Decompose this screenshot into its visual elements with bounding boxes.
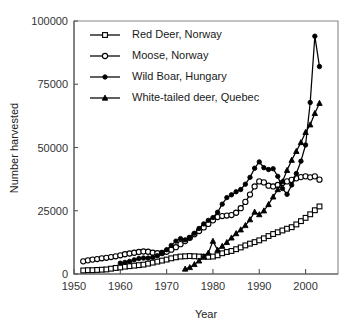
data-point	[155, 254, 159, 258]
data-point	[257, 238, 262, 243]
data-point	[201, 222, 205, 226]
data-point	[276, 174, 280, 178]
data-point	[229, 249, 234, 254]
data-point	[257, 160, 261, 164]
data-point	[95, 268, 100, 273]
data-point	[243, 182, 247, 186]
data-point	[280, 186, 284, 190]
data-point	[127, 264, 132, 269]
y-tick-label-0: 0	[62, 268, 68, 280]
data-point	[234, 190, 238, 194]
data-point	[317, 177, 322, 182]
x-tick-label-1980: 1980	[201, 280, 225, 292]
data-point	[229, 193, 233, 197]
data-point	[104, 267, 109, 272]
data-point	[261, 180, 266, 185]
data-point	[271, 167, 275, 171]
data-point	[187, 254, 192, 259]
data-point	[308, 100, 312, 104]
data-point	[178, 236, 182, 240]
data-point	[289, 183, 293, 187]
data-point	[313, 34, 317, 38]
data-point	[289, 225, 294, 230]
data-point	[248, 175, 252, 179]
data-point	[262, 166, 266, 170]
data-point	[266, 167, 270, 171]
data-point	[178, 254, 183, 259]
data-point	[197, 226, 201, 230]
data-point	[132, 258, 136, 262]
data-point	[266, 234, 271, 239]
data-point	[141, 262, 146, 267]
data-point	[137, 256, 141, 260]
data-point	[109, 266, 114, 271]
data-point	[173, 255, 178, 260]
data-point	[215, 253, 220, 258]
data-point	[238, 245, 243, 250]
data-point	[220, 251, 225, 256]
data-point	[317, 64, 321, 68]
data-point	[160, 251, 164, 255]
legend-marker-open-square-icon	[103, 33, 108, 38]
data-point	[132, 263, 137, 268]
data-point	[247, 192, 252, 197]
data-point	[160, 258, 165, 263]
chart-container: 0250005000075000100000 19501960197019801…	[0, 0, 354, 325]
data-point	[206, 218, 210, 222]
data-point	[169, 256, 174, 261]
data-point	[285, 192, 289, 196]
harvest-line-chart: 0250005000075000100000 19501960197019801…	[0, 0, 354, 325]
data-point	[271, 232, 276, 237]
data-point	[252, 166, 256, 170]
data-point	[308, 212, 313, 217]
data-point	[151, 255, 155, 259]
x-tick-label-1970: 1970	[154, 280, 178, 292]
data-point	[280, 228, 285, 233]
legend-label: Red Deer, Norway	[132, 28, 222, 40]
data-point	[234, 247, 239, 252]
data-point	[146, 256, 150, 260]
data-point	[303, 215, 308, 220]
data-point	[188, 236, 192, 240]
data-point	[243, 243, 248, 248]
data-point	[285, 226, 290, 231]
data-point	[141, 256, 145, 260]
x-axis-title: Year	[195, 308, 218, 320]
data-point	[164, 248, 168, 252]
data-point	[169, 243, 173, 247]
data-point	[211, 215, 215, 219]
data-point	[299, 219, 304, 224]
data-point	[261, 236, 266, 241]
x-tick-label-1950: 1950	[62, 280, 86, 292]
data-point	[81, 268, 86, 273]
data-point	[183, 254, 188, 259]
data-point	[238, 206, 243, 211]
data-point	[146, 261, 151, 266]
legend-marker-solid-circle-icon	[103, 75, 107, 79]
data-point	[90, 268, 95, 273]
y-axis-title: Number harvested	[8, 103, 20, 194]
x-tick-label-1990: 1990	[247, 280, 271, 292]
data-point	[123, 260, 127, 264]
y-tick-label-50000: 50000	[37, 142, 68, 154]
data-point	[252, 240, 257, 245]
data-point	[192, 254, 197, 259]
data-point	[252, 184, 257, 189]
legend-label: Moose, Norway	[132, 49, 209, 61]
legend-label: Wild Boar, Hungary	[132, 70, 227, 82]
y-tick-label-75000: 75000	[37, 78, 68, 90]
data-point	[294, 222, 299, 227]
y-tick-label-25000: 25000	[37, 205, 68, 217]
y-tick-label-100000: 100000	[31, 15, 68, 27]
data-point	[215, 210, 219, 214]
data-point	[294, 171, 298, 175]
legend-marker-open-circle-icon	[102, 53, 107, 58]
x-tick-label-2000: 2000	[293, 280, 317, 292]
data-point	[113, 266, 118, 271]
data-point	[234, 210, 239, 215]
data-point	[192, 231, 196, 235]
data-point	[224, 250, 229, 255]
data-point	[243, 199, 248, 204]
data-point	[183, 238, 187, 242]
data-point	[99, 267, 104, 272]
